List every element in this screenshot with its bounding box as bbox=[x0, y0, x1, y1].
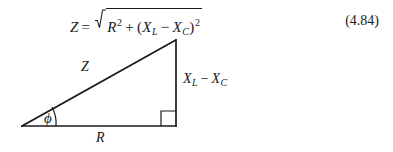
impedance-triangle-diagram: Z R ϕ XL−XC bbox=[0, 34, 300, 152]
reactance-XL-base: X bbox=[183, 71, 192, 86]
minus-sign: − bbox=[158, 19, 173, 35]
term-XC-base: X bbox=[172, 19, 181, 35]
right-angle-icon bbox=[161, 111, 176, 126]
equation-lhs: Z bbox=[70, 19, 79, 35]
reactance-XC-subscript: C bbox=[220, 77, 227, 88]
reactance-difference-label: XL−XC bbox=[183, 72, 227, 88]
equation-row: Z= R2+(XL−XC)2 (4.84) bbox=[0, 8, 393, 36]
triangle-graphic bbox=[0, 34, 300, 152]
term-R: R bbox=[107, 19, 116, 35]
figure-canvas: Z= R2+(XL−XC)2 (4.84) Z bbox=[0, 0, 393, 152]
equals-sign: = bbox=[79, 19, 94, 35]
phase-angle-label: ϕ bbox=[44, 111, 52, 126]
square-root-icon bbox=[95, 9, 106, 29]
paren-group-exponent: 2 bbox=[194, 17, 200, 28]
base-label: R bbox=[96, 131, 105, 145]
term-XL-base: X bbox=[142, 19, 151, 35]
reactance-XC-base: X bbox=[212, 71, 221, 86]
plus-sign: + bbox=[122, 19, 137, 35]
reactance-XL-subscript: L bbox=[192, 77, 198, 88]
equation-number: (4.84) bbox=[345, 8, 379, 34]
reactance-minus-sign: − bbox=[198, 71, 212, 86]
hypotenuse-label: Z bbox=[81, 60, 89, 74]
